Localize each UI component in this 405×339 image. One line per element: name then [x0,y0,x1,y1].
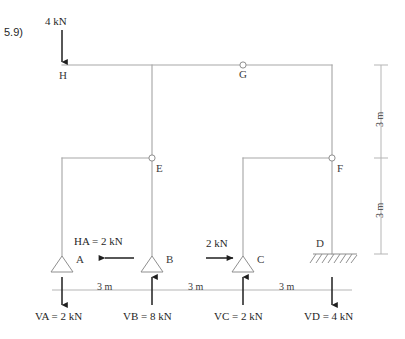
pin-support-icon-B [141,256,163,272]
pin-support-icon-C [232,256,254,272]
reaction-label-vc: VC = 2 kN [214,311,263,322]
diagram-page: 5.9) 4 kN H G E F A B C D HA = 2 kN 2 kN… [0,0,405,339]
problem-number: 5.9) [4,27,23,38]
frame-members [62,65,332,256]
dimension-label-span-ab: 3 m [97,282,112,292]
fixed-support-icon-D [310,254,357,263]
reaction-label-va: VA = 2 kN [35,311,82,322]
load-label-c: 2 kN [206,238,228,249]
dimension-label-height-lower: 3 m [375,203,385,218]
vertical-dimension-line [374,65,388,254]
dimension-label-height-upper: 3 m [375,112,385,127]
reaction-label-vd: VD = 4 kN [304,311,353,322]
node-label-B: B [166,254,173,265]
node-label-E: E [156,163,163,174]
pin-support-icon-A [51,256,73,272]
fixed-support-hatch [310,254,357,263]
node-label-H: H [59,70,67,81]
load-label-ha: HA = 2 kN [74,236,123,247]
hinge-icon-F [329,155,335,161]
load-label-top: 4 kN [45,16,67,27]
hinge-icon-E [149,155,155,161]
node-label-D: D [316,238,324,249]
reaction-label-vb: VB = 8 kN [123,311,172,322]
node-label-C: C [257,254,264,265]
dimension-label-span-bc: 3 m [188,282,203,292]
node-label-G: G [239,69,247,80]
dimension-label-span-cd: 3 m [279,282,294,292]
node-label-F: F [337,163,343,174]
node-label-A: A [76,254,84,265]
